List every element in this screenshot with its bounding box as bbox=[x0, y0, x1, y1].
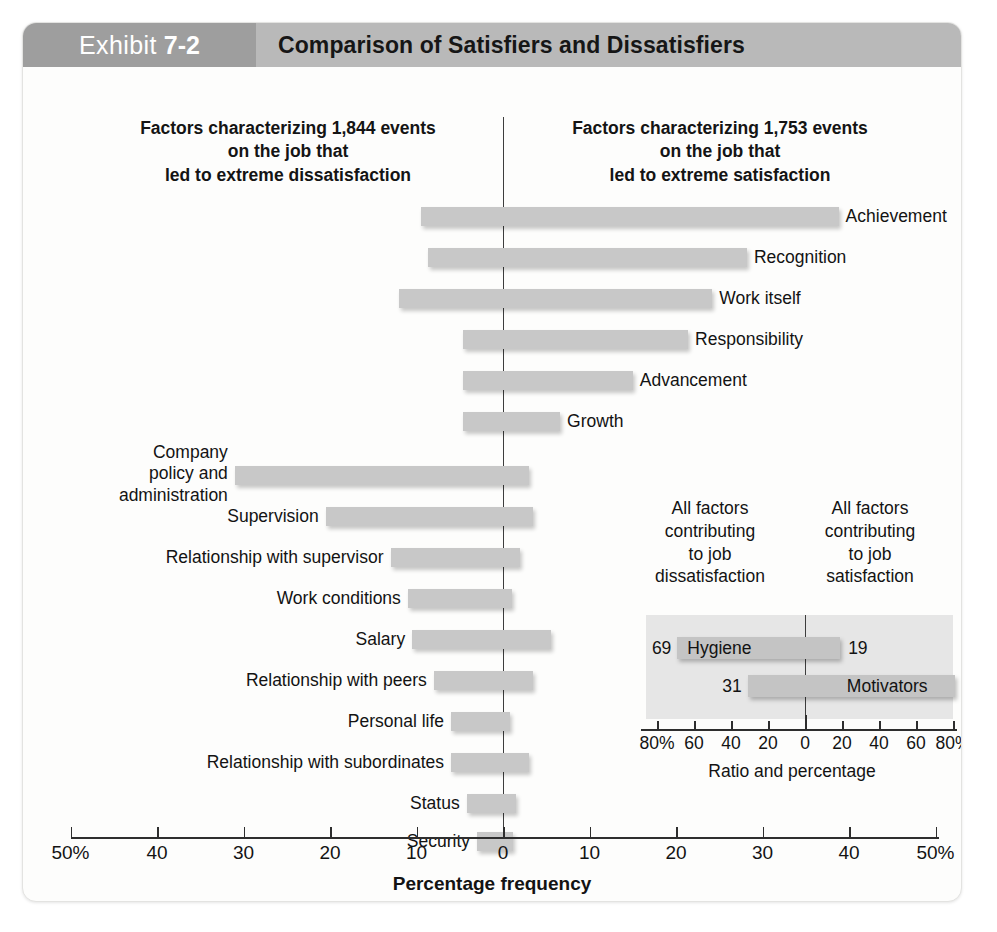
bar-hygiene bbox=[467, 794, 516, 813]
bar-label-hygiene: Personal life bbox=[22, 712, 444, 731]
inset-axis-tick bbox=[694, 721, 696, 730]
x-axis-tick-label: 30 bbox=[733, 842, 793, 864]
bar-label-motivator: Advancement bbox=[640, 371, 747, 390]
x-axis-tick bbox=[936, 827, 938, 838]
bar-label-hygiene: Relationship with supervisor bbox=[22, 548, 384, 567]
inset-axis-tick-label: 80% bbox=[931, 733, 962, 754]
x-axis-tick-label: 40 bbox=[819, 842, 879, 864]
bar-label-hygiene: Relationship with subordinates bbox=[22, 753, 444, 772]
bar-hygiene bbox=[451, 753, 529, 772]
inset-axis-tick bbox=[916, 721, 918, 730]
inset-axis-tick bbox=[953, 721, 955, 730]
x-axis-tick-label: 50% bbox=[41, 842, 101, 864]
inset-axis-line bbox=[641, 729, 957, 731]
x-axis-tick-label: 50% bbox=[906, 842, 963, 864]
inset-bar-name: Hygiene bbox=[687, 637, 751, 659]
x-axis-tick bbox=[71, 827, 73, 838]
bar-hygiene bbox=[412, 630, 550, 649]
exhibit-label: Exhibit bbox=[79, 31, 157, 60]
inset-axis-tick bbox=[805, 715, 807, 730]
x-axis-tick bbox=[417, 827, 419, 838]
inset-axis-tick bbox=[731, 721, 733, 730]
inset-caption-dissatisfaction: All factorscontributingto jobdissatisfac… bbox=[635, 497, 785, 588]
inset-axis-title: Ratio and percentage bbox=[623, 761, 961, 782]
bar-hygiene bbox=[235, 466, 529, 485]
bar-label-motivator: Recognition bbox=[754, 248, 846, 267]
bar-hygiene bbox=[326, 507, 534, 526]
x-axis-tick bbox=[244, 827, 246, 838]
exhibit-title: Comparison of Satisfiers and Dissatisfie… bbox=[278, 23, 745, 67]
bar-motivator bbox=[463, 412, 560, 431]
x-axis-tick bbox=[849, 827, 851, 838]
inset-value-left: 69 bbox=[641, 637, 671, 659]
bar-motivator bbox=[428, 248, 747, 267]
x-axis-tick-label: 30 bbox=[214, 842, 274, 864]
caption-dissatisfaction: Factors characterizing 1,844 eventson th… bbox=[73, 117, 503, 187]
x-axis-tick-label: 40 bbox=[127, 842, 187, 864]
bar-motivator bbox=[463, 330, 688, 349]
x-axis-tick-label: 10 bbox=[387, 842, 447, 864]
bar-label-motivator: Work itself bbox=[719, 289, 800, 308]
bar-label-hygiene: Status bbox=[22, 794, 460, 813]
x-axis-tick bbox=[590, 827, 592, 838]
bar-motivator bbox=[421, 207, 839, 226]
bar-hygiene bbox=[408, 589, 512, 608]
exhibit-frame: Exhibit 7-2 Comparison of Satisfiers and… bbox=[22, 22, 962, 902]
chart-plot-area: Factors characterizing 1,844 eventson th… bbox=[23, 67, 961, 901]
inset-axis-tick bbox=[768, 721, 770, 730]
x-axis-line bbox=[71, 837, 939, 839]
x-axis-tick-label: 10 bbox=[560, 842, 620, 864]
x-axis-tick-label: 0 bbox=[473, 842, 533, 864]
inset-zero-axis-line bbox=[805, 615, 806, 719]
x-axis-tick-label: 20 bbox=[300, 842, 360, 864]
inset-caption-satisfaction: All factorscontributingto jobsatisfactio… bbox=[795, 497, 945, 588]
x-axis-title: Percentage frequency bbox=[23, 873, 961, 895]
bar-label-motivator: Growth bbox=[567, 412, 623, 431]
bar-label-hygiene: Supervision bbox=[22, 507, 319, 526]
bar-label-hygiene: Work conditions bbox=[22, 589, 401, 608]
inset-value-right: 19 bbox=[848, 637, 867, 659]
inset-axis-tick bbox=[842, 721, 844, 730]
x-axis-tick bbox=[157, 827, 159, 838]
x-axis-tick-label: 20 bbox=[646, 842, 706, 864]
x-axis-tick bbox=[676, 827, 678, 838]
bar-motivator bbox=[463, 371, 633, 390]
x-axis-tick bbox=[503, 827, 505, 838]
bar-motivator bbox=[399, 289, 712, 308]
ratio-inset-chart: All factorscontributingto jobdissatisfac… bbox=[623, 497, 961, 807]
bar-label-hygiene: Relationship with peers bbox=[22, 671, 427, 690]
inset-bar-name: Motivators bbox=[847, 675, 928, 697]
bar-label-motivator: Responsibility bbox=[695, 330, 803, 349]
bar-hygiene bbox=[391, 548, 521, 567]
inset-axis-tick bbox=[657, 721, 659, 730]
bar-label-hygiene: Companypolicy andadministration bbox=[22, 442, 228, 506]
bar-label-hygiene: Salary bbox=[22, 630, 405, 649]
caption-satisfaction: Factors characterizing 1,753 eventson th… bbox=[505, 117, 935, 187]
bar-label-motivator: Achievement bbox=[846, 207, 947, 226]
x-axis-tick bbox=[763, 827, 765, 838]
exhibit-tab: Exhibit 7-2 bbox=[23, 23, 256, 67]
inset-panel-background bbox=[646, 615, 953, 719]
x-axis-tick bbox=[330, 827, 332, 838]
inset-axis-tick bbox=[879, 721, 881, 730]
exhibit-number: 7-2 bbox=[164, 31, 200, 60]
exhibit-header: Exhibit 7-2 Comparison of Satisfiers and… bbox=[23, 23, 961, 67]
inset-value-left: 31 bbox=[712, 675, 742, 697]
bar-hygiene bbox=[434, 671, 533, 690]
bar-hygiene bbox=[451, 712, 510, 731]
